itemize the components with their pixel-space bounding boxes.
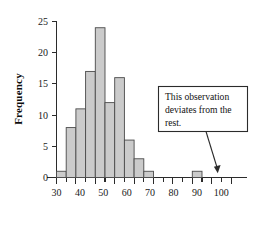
arrow-head-icon: [214, 165, 221, 173]
histogram-bar: [124, 140, 134, 177]
callout-text-line-1: This observation: [165, 91, 229, 102]
y-tick-label-10: 10: [38, 110, 48, 121]
callout-text-line-2: deviates from the: [165, 104, 232, 115]
y-axis-tick-labels: 0 5 10 15 20 25: [38, 16, 48, 183]
y-tick-label-0: 0: [43, 172, 48, 183]
histogram-bar: [134, 159, 144, 178]
x-tick-label-60: 60: [122, 187, 132, 198]
histogram-bar: [95, 28, 105, 178]
callout-text-line-3: rest.: [165, 117, 181, 128]
x-tick-label-100: 100: [214, 187, 229, 198]
histogram-bar: [57, 171, 67, 177]
x-tick-label-30: 30: [52, 187, 62, 198]
histogram-bar: [86, 71, 96, 177]
callout-arrow: [206, 132, 221, 174]
y-tick-label-20: 20: [38, 47, 48, 58]
y-axis-ticks: [52, 22, 57, 178]
histogram-bar: [115, 78, 125, 178]
x-tick-label-70: 70: [145, 187, 155, 198]
histogram-bar: [76, 109, 86, 178]
y-tick-label-25: 25: [38, 16, 48, 27]
y-axis-title: Frequency: [12, 73, 24, 125]
x-axis-minor-ticks: [66, 178, 221, 183]
x-tick-label-50: 50: [98, 187, 108, 198]
histogram-bar: [144, 171, 154, 177]
x-tick-label-80: 80: [169, 187, 179, 198]
x-axis-tick-labels: 30 40 50 60 70 80 90 100: [52, 187, 229, 198]
y-tick-label-15: 15: [38, 78, 48, 89]
y-tick-label-5: 5: [43, 141, 48, 152]
histogram-bar: [105, 103, 115, 178]
histogram-bar: [66, 128, 76, 178]
x-tick-label-90: 90: [192, 187, 202, 198]
histogram-plot-area: 0 5 10 15 20 25 Frequency: [0, 0, 257, 226]
x-tick-label-40: 40: [75, 187, 85, 198]
histogram-figure: 0 5 10 15 20 25 Frequency: [0, 0, 257, 226]
histogram-bar: [192, 171, 202, 177]
